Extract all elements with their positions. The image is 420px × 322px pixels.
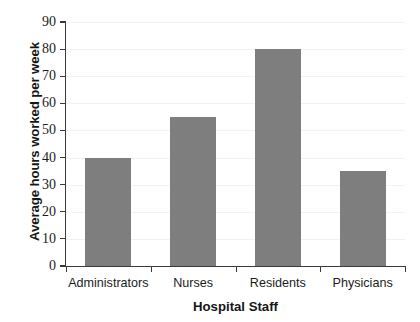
x-category-label: Residents	[236, 276, 321, 290]
x-tick-mark	[66, 266, 67, 272]
y-axis-title: Average hours worked per week	[27, 22, 42, 262]
y-tick-label: 40	[16, 151, 56, 165]
bar	[170, 117, 216, 266]
plot-area	[66, 22, 405, 266]
y-tick-label: 10	[16, 232, 56, 246]
x-category-label: Nurses	[151, 276, 236, 290]
x-axis-title: Hospital Staff	[66, 299, 405, 314]
y-tick-label: 70	[16, 69, 56, 83]
y-tick-label: 60	[16, 96, 56, 110]
y-tick-label: 90	[16, 15, 56, 29]
bar	[85, 158, 131, 266]
x-tick-mark	[236, 266, 237, 272]
y-tick-label: 0	[16, 259, 56, 273]
chart-title	[0, 0, 420, 5]
y-tick-label: 50	[16, 123, 56, 137]
x-category-label: Administrators	[66, 276, 151, 290]
x-tick-mark	[320, 266, 321, 272]
bar	[255, 49, 301, 266]
bar	[340, 171, 386, 266]
x-category-label: Physicians	[320, 276, 405, 290]
x-tick-mark	[151, 266, 152, 272]
bar-chart-figure: Average hours worked per week 9080706050…	[0, 0, 420, 322]
x-tick-mark	[405, 266, 406, 272]
y-tick-label: 20	[16, 205, 56, 219]
y-tick-label: 80	[16, 42, 56, 56]
y-tick-label: 30	[16, 178, 56, 192]
